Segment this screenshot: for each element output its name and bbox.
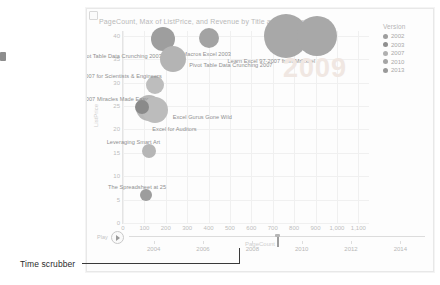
scrubber-tick xyxy=(302,241,303,244)
scrubber-tick xyxy=(154,241,155,244)
report-corner-handle-icon xyxy=(89,11,98,20)
legend-item-label: 2010 xyxy=(391,59,404,65)
bubble-data-point[interactable] xyxy=(142,144,156,158)
gridline-horizontal xyxy=(123,176,369,177)
time-scrubber-annotation-label: Time scrubber xyxy=(20,259,75,269)
y-axis-tick-label: 15 xyxy=(113,150,120,156)
legend-item-label: 2013 xyxy=(391,67,404,73)
y-axis-tick-label: 5 xyxy=(117,197,120,203)
legend-title: Version xyxy=(383,23,427,30)
bubble-data-label: Excel for Auditors xyxy=(152,126,196,132)
legend-item-label: 2003 xyxy=(391,42,404,48)
report-left-edge-icon xyxy=(0,52,6,61)
bubble-data-point[interactable] xyxy=(135,100,149,114)
bubble-data-label: Leveraging Smart Art xyxy=(107,139,161,145)
y-axis-tick-label: 30 xyxy=(113,80,120,86)
scrubber-tick xyxy=(351,241,352,244)
y-axis-tick-label: 20 xyxy=(113,126,120,132)
legend-item-label: 2007 xyxy=(391,50,404,56)
bubble-data-point[interactable] xyxy=(297,16,337,56)
animation-year-watermark: 2009 xyxy=(283,53,347,84)
bubble-data-point[interactable] xyxy=(140,189,152,201)
legend-swatch-icon xyxy=(383,68,388,73)
play-label: Play xyxy=(97,234,108,240)
scrubber-tick-label: 2014 xyxy=(394,246,407,252)
scrubber-tick xyxy=(203,241,204,244)
gridline-horizontal xyxy=(123,153,369,154)
scrubber-tick-label: 2008 xyxy=(246,246,259,252)
scrubber-tick xyxy=(400,241,401,244)
play-button[interactable] xyxy=(111,231,124,244)
legend-item-2010[interactable]: 2010 xyxy=(383,59,427,65)
scrubber-handle-cap xyxy=(275,234,280,237)
legend-swatch-icon xyxy=(383,59,388,64)
legend-swatch-icon xyxy=(383,51,388,56)
y-axis-title: ListPrice xyxy=(93,104,99,127)
play-icon xyxy=(116,235,120,241)
bubble-data-label: The Spreadsheet at 25 xyxy=(108,184,166,190)
scrubber-tick-label: 2006 xyxy=(196,246,209,252)
scrubber-tick-label: 2004 xyxy=(147,246,160,252)
bubble-data-point[interactable] xyxy=(160,46,186,72)
legend-swatch-icon xyxy=(383,34,388,39)
y-axis-tick-label: 40 xyxy=(113,33,120,39)
version-legend: Version 2002 2003 2007 2010 2013 xyxy=(383,23,427,76)
legend-item-2013[interactable]: 2013 xyxy=(383,67,427,73)
scrubber-tick-label: 2010 xyxy=(295,246,308,252)
scrubber-track[interactable]: 200420062008201020122014 xyxy=(129,236,425,237)
power-view-report-canvas: PageCount, Max of ListPrice, and Revenue… xyxy=(86,8,434,272)
scrubber-handle[interactable] xyxy=(277,236,279,247)
scrubber-tick xyxy=(252,241,253,244)
time-scrubber[interactable]: Play 200420062008201020122014 xyxy=(97,231,427,259)
gridline-horizontal xyxy=(123,200,369,201)
scrubber-tick-label: 2012 xyxy=(344,246,357,252)
legend-item-2002[interactable]: 2002 xyxy=(383,33,427,39)
legend-item-2007[interactable]: 2007 xyxy=(383,50,427,56)
legend-item-label: 2002 xyxy=(391,33,404,39)
legend-swatch-icon xyxy=(383,42,388,47)
y-axis-tick-label: 0 xyxy=(117,220,120,226)
y-axis-tick-label: 10 xyxy=(113,173,120,179)
y-axis-tick-label: 25 xyxy=(113,103,120,109)
bubble-data-label: Excel 2007 for Scientists & Engineers xyxy=(86,73,162,79)
bubble-data-label: Pivot Table Data Crunching 2003 xyxy=(86,53,162,59)
gridline-horizontal xyxy=(123,223,369,224)
legend-item-2003[interactable]: 2003 xyxy=(383,42,427,48)
bubble-data-point[interactable] xyxy=(199,28,219,48)
bubble-data-label: Excel Gurus Gone Wild xyxy=(173,114,232,120)
